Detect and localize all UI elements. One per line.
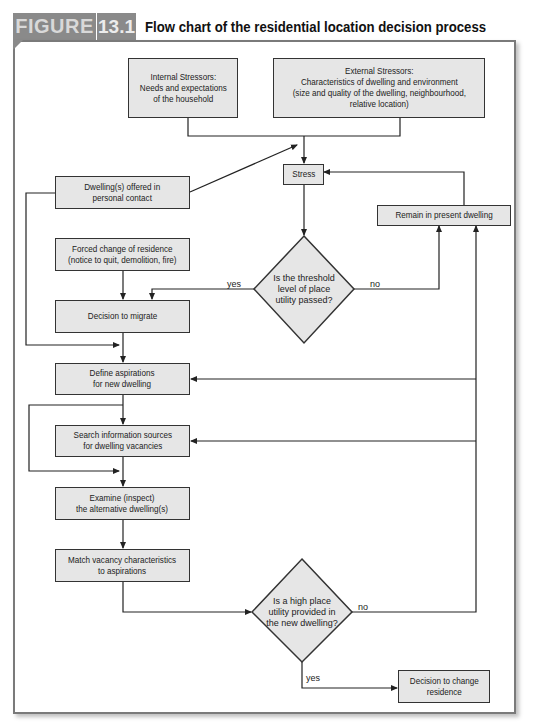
dwelling-offered-text: Dwelling(s) offered in personal contact — [85, 182, 161, 204]
internal-stressors-text: Internal Stressors: Needs and expectatio… — [140, 72, 227, 105]
high-utility-no-label: no — [358, 602, 368, 612]
threshold-no-label: no — [370, 279, 380, 289]
define-aspirations-box: Define aspirations for new dwelling — [55, 363, 190, 395]
decision-change-text: Decision to change residence — [410, 676, 479, 698]
external-stressors-box: External Stressors: Characteristics of d… — [273, 58, 485, 118]
dwelling-offered-box: Dwelling(s) offered in personal contact — [55, 176, 190, 209]
threshold-decision-text: Is the threshold level of place utility … — [264, 268, 344, 310]
search-sources-box: Search information sources for dwelling … — [55, 425, 190, 457]
decision-migrate-text: Decision to migrate — [88, 311, 157, 322]
external-stressors-text: External Stressors: Characteristics of d… — [292, 66, 465, 110]
high-utility-yes-label: yes — [306, 673, 320, 683]
define-aspirations-text: Define aspirations for new dwelling — [90, 368, 155, 390]
decision-change-box: Decision to change residence — [398, 670, 490, 703]
remain-present-text: Remain in present dwelling — [395, 210, 492, 221]
internal-stressors-box: Internal Stressors: Needs and expectatio… — [128, 58, 238, 118]
forced-change-text: Forced change of residence (notice to qu… — [68, 244, 177, 266]
match-vacancy-text: Match vacancy characteristics to aspirat… — [68, 555, 176, 577]
examine-alternatives-text: Examine (inspect) the alternative dwelli… — [77, 493, 169, 515]
match-vacancy-box: Match vacancy characteristics to aspirat… — [55, 549, 190, 582]
high-utility-decision-text: Is a high place utility provided in the … — [262, 591, 342, 633]
threshold-yes-label: yes — [227, 279, 241, 289]
stress-text: Stress — [292, 169, 315, 180]
stress-box: Stress — [283, 164, 324, 185]
decision-migrate-box: Decision to migrate — [55, 300, 190, 333]
search-sources-text: Search information sources for dwelling … — [73, 430, 172, 452]
examine-alternatives-box: Examine (inspect) the alternative dwelli… — [55, 487, 190, 520]
forced-change-box: Forced change of residence (notice to qu… — [55, 238, 190, 271]
remain-present-box: Remain in present dwelling — [377, 205, 511, 226]
